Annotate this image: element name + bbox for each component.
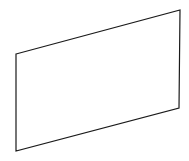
- background: [0, 0, 189, 161]
- diagram-canvas: [0, 0, 189, 161]
